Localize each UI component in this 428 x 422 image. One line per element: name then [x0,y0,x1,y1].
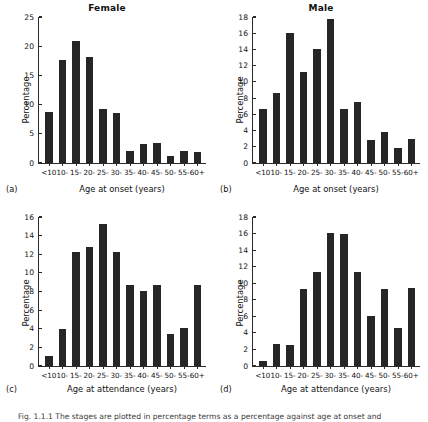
panel-a: Female Percentage 0510152025 <1010-15-20… [0,0,214,200]
bar-slot [405,217,419,366]
x-axis-tick: 15- [69,163,83,181]
y-tick-label: 2 [243,141,248,152]
x-tick-mark [103,366,104,369]
y-tick-label: 10 [238,278,248,289]
y-tick-label: 25 [24,12,34,23]
y-tick-label: 8 [29,286,34,297]
x-tick-mark [357,163,358,166]
x-axis-tick: 60+ [405,366,419,384]
bar-slot [310,217,324,366]
bar-slot [191,217,205,366]
x-axis-tick: 55- [391,163,405,181]
bar [45,356,53,366]
x-tick-mark [76,366,77,369]
panel-c-x-axis: <1010-15-20-25-30-35-40-45-50-55-60+ [39,366,206,384]
y-tick-label: 4 [243,125,248,136]
bar [194,152,202,163]
x-tick-mark [197,163,198,166]
bar-slot [405,17,419,163]
x-tick-mark [116,163,117,166]
bar [394,328,402,366]
bar-slot [364,17,378,163]
bar [99,109,107,163]
x-tick-label: 10- [270,168,282,177]
panel-c: Percentage 0246810121416 <1010-15-20-25-… [0,203,214,403]
x-tick-label: 45- [151,371,163,380]
bar-slot [337,217,351,366]
x-axis-tick: 45- [364,366,378,384]
figure-four-panel-bar-charts: Female Percentage 0510152025 <1010-15-20… [0,0,428,422]
x-tick-mark [143,163,144,166]
x-axis-tick: 20- [83,163,97,181]
x-tick-mark [344,163,345,166]
bar [381,289,389,366]
x-tick-label: 25- [97,371,109,380]
bar-slot [270,17,284,163]
x-axis-tick: 45- [150,163,164,181]
x-tick-mark [371,163,372,166]
bar [72,252,80,366]
x-axis-tick: 30- [324,163,338,181]
x-axis-tick: 60+ [191,366,205,384]
figure-caption: Fig. 1.1.1 The stages are plotted in per… [18,412,416,422]
x-tick-label: 60+ [404,371,419,380]
y-tick-label: 10 [238,76,248,87]
bar-slot [164,17,178,163]
y-tick-label: 4 [243,327,248,338]
bar [140,144,148,163]
panel-a-plot-area: 0510152025 <1010-15-20-25-30-35-40-45-50… [38,17,206,164]
bar-slot [56,217,70,366]
x-tick-label: 55- [178,168,190,177]
bar-slot [137,17,151,163]
x-axis-tick: 35- [123,366,137,384]
x-tick-label: 30- [324,371,336,380]
bar [180,328,188,366]
x-tick-mark [398,163,399,166]
x-tick-label: 35- [124,371,136,380]
x-axis-tick: 30- [110,366,124,384]
bar-slot [283,217,297,366]
panel-c-bars [39,217,206,366]
x-axis-tick: 15- [283,366,297,384]
x-axis-tick: 60+ [405,163,419,181]
x-tick-mark [49,366,50,369]
bar-slot [324,217,338,366]
x-tick-mark [290,366,291,369]
bar-slot [123,17,137,163]
bar-slot [191,17,205,163]
bar [394,148,402,163]
bar [126,151,134,163]
y-tick-label: 6 [29,305,34,316]
x-tick-label: 45- [365,168,377,177]
bar [313,49,321,163]
y-tick-label: 14 [24,230,34,241]
bar [300,72,308,163]
x-tick-mark [62,366,63,369]
bar-slot [83,217,97,366]
x-tick-mark [263,366,264,369]
bar-slot [351,17,365,163]
x-tick-mark [344,366,345,369]
x-axis-tick: 20- [83,366,97,384]
y-tick-label: 2 [243,344,248,355]
x-tick-label: 15- [284,371,296,380]
x-tick-mark [62,163,63,166]
bar-slot [391,217,405,366]
bar [286,345,294,366]
x-tick-label: 50- [378,168,390,177]
panel-b-letter: (b) [220,184,232,194]
bar-slot [110,217,124,366]
x-tick-label: 55- [178,371,190,380]
y-tick-label: 2 [29,342,34,353]
x-tick-mark [143,366,144,369]
bar [273,93,281,163]
panel-b-x-axis: <1010-15-20-25-30-35-40-45-50-55-60+ [253,163,420,181]
x-axis-tick: 55- [391,366,405,384]
x-tick-label: 40- [137,371,149,380]
bar [59,329,67,366]
x-tick-label: 35- [124,168,136,177]
x-axis-tick: <10 [42,163,56,181]
panel-b-plot-area: 024681012141618 <1010-15-20-25-30-35-40-… [252,17,420,164]
bar [86,247,94,366]
x-tick-label: 30- [110,168,122,177]
